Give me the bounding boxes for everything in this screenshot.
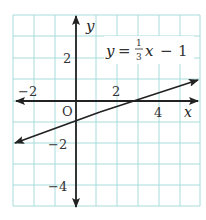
- svg-text:y: y: [105, 42, 115, 60]
- svg-text:=: =: [118, 42, 131, 60]
- x-tick-label: 4: [154, 105, 162, 120]
- coordinate-graph: y x O −2 2 4 2 −2 −4 y = 1 3 x − 1: [0, 0, 206, 220]
- origin-label: O: [62, 104, 73, 119]
- svg-text:1: 1: [136, 38, 142, 48]
- y-tick-label: −4: [48, 179, 67, 194]
- equation-label: y = 1 3 x − 1: [104, 36, 194, 64]
- x-axis-label: x: [184, 104, 192, 120]
- y-tick-label: −2: [48, 137, 67, 152]
- svg-text:3: 3: [136, 52, 142, 62]
- svg-text:x: x: [145, 42, 154, 60]
- x-tick-label: −2: [18, 84, 37, 99]
- svg-text:1: 1: [178, 42, 188, 60]
- plotted-line: [15, 80, 198, 143]
- svg-text:−: −: [160, 42, 173, 60]
- y-tick-label: 2: [63, 51, 71, 66]
- y-axis-label: y: [85, 17, 95, 35]
- x-tick-label: 2: [112, 84, 120, 99]
